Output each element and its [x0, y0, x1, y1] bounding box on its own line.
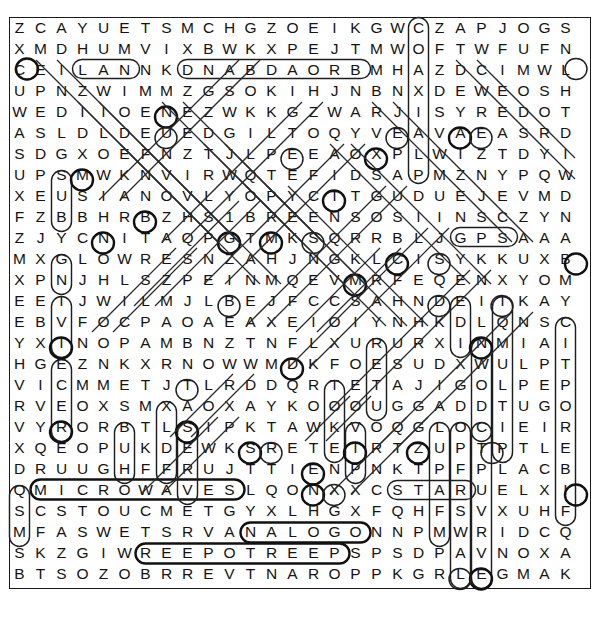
word-search-puzzle: ZCAYUETSMCHGZOEIKGWCZAPJOGSXMDHUMVIXBWKX… [0, 0, 612, 617]
puzzle-grid-border [9, 17, 591, 589]
